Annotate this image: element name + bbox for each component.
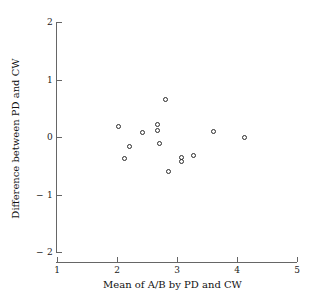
data-point [242, 135, 247, 140]
y-tick-mark [57, 252, 62, 253]
x-tick-label: 2 [105, 265, 129, 275]
x-tick-label: 3 [165, 265, 189, 275]
x-tick-mark [237, 257, 238, 262]
data-point [140, 130, 145, 135]
y-tick-label: 2 [0, 18, 53, 27]
y-tick-label: − 2 [0, 248, 53, 257]
x-tick-label: 4 [225, 265, 249, 275]
data-point [163, 97, 168, 102]
plot-data-area [57, 22, 297, 252]
y-tick-label: − 1 [0, 191, 53, 200]
data-point [179, 159, 184, 164]
scatter-plot-figure: 210− 1− 2 12345 Mean of A/B by PD and CW… [0, 0, 312, 299]
x-tick-label: 1 [45, 265, 69, 275]
y-tick-label: 0 [0, 133, 53, 142]
data-point [166, 169, 171, 174]
data-point [157, 141, 162, 146]
data-point [211, 129, 216, 134]
x-tick-mark [117, 257, 118, 262]
data-point [155, 128, 160, 133]
x-axis-line [56, 262, 297, 263]
x-tick-label: 5 [285, 265, 309, 275]
y-tick-label: 1 [0, 76, 53, 85]
data-point [122, 156, 127, 161]
data-point [116, 124, 121, 129]
data-point [127, 144, 132, 149]
x-tick-mark [57, 257, 58, 262]
x-axis-title: Mean of A/B by PD and CW [40, 279, 305, 290]
y-axis-title: Difference between PD and CW [10, 29, 21, 249]
x-tick-mark [177, 257, 178, 262]
data-point [155, 122, 160, 127]
x-tick-mark [297, 257, 298, 262]
data-point [191, 153, 196, 158]
